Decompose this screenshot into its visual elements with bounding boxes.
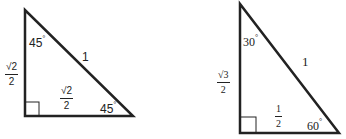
- angle-bottom-right-right-triangle: 60°: [307, 120, 322, 132]
- angle-bottom-right-left-triangle: 45°: [100, 103, 117, 115]
- right-angle-marker-left: [25, 102, 39, 116]
- vertical-leg-left-triangle: √2 2: [5, 62, 18, 87]
- right-angle-marker-right: [240, 117, 256, 133]
- vertical-leg-right-triangle: √3 2: [217, 70, 230, 95]
- angle-top-left-triangle: 45°: [29, 37, 46, 49]
- triangle-30-60-90: [240, 4, 339, 133]
- hypotenuse-right-triangle: 1: [302, 55, 309, 68]
- hypotenuse-left-triangle: 1: [82, 51, 89, 63]
- horizontal-leg-left-triangle: √2 2: [60, 86, 73, 111]
- triangles-figure: [0, 0, 346, 139]
- horizontal-leg-right-triangle: 1 2: [275, 104, 282, 129]
- angle-top-right-triangle: 30°: [243, 36, 258, 48]
